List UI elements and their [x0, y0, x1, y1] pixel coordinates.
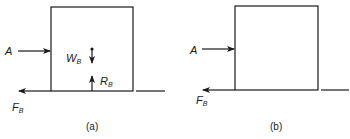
- reaction-label: RB: [100, 75, 113, 88]
- friction-label-b: FB: [196, 94, 208, 107]
- friction-label-a: FB: [12, 101, 24, 114]
- block-b: [235, 6, 318, 90]
- applied-force-label-b: A: [189, 44, 197, 56]
- free-body-diagrams: A WB RB FB (a) A FB (b): [0, 0, 350, 139]
- panel-b: A FB (b): [189, 6, 349, 132]
- caption-b: (b): [270, 121, 282, 132]
- caption-a: (a): [86, 121, 98, 132]
- applied-force-label-a: A: [4, 45, 12, 57]
- weight-label: WB: [66, 52, 81, 65]
- panel-a: A WB RB FB (a): [4, 7, 165, 132]
